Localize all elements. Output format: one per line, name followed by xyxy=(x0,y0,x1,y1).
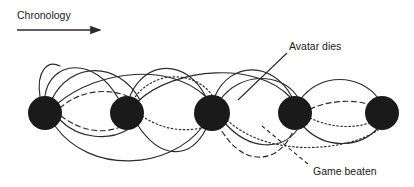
node-n5 xyxy=(365,96,399,130)
chronology-label: Chronology xyxy=(17,9,71,21)
node-n1 xyxy=(28,96,62,130)
avatar-dies-label: Avatar dies xyxy=(289,40,341,52)
node-n4 xyxy=(278,96,312,130)
figure-background xyxy=(0,0,414,187)
node-n2 xyxy=(110,96,144,130)
chronology-network-diagram: Chronology Avatar dies Game beaten xyxy=(0,0,414,187)
game-beaten-label: Game beaten xyxy=(313,165,377,177)
node-n3 xyxy=(194,95,230,131)
